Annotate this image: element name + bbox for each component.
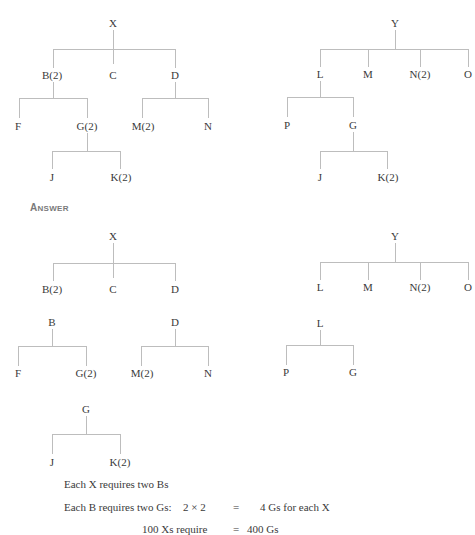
- node-b: B(2): [42, 283, 62, 295]
- node-d: D: [171, 316, 179, 328]
- node-n: N: [204, 367, 212, 379]
- connector: [175, 82, 176, 98]
- connector: [53, 263, 176, 264]
- calc-line-2-label: Each B requires two Gs:: [64, 501, 172, 513]
- connector: [52, 151, 53, 169]
- node-k: K(2): [378, 171, 399, 183]
- connector: [353, 97, 354, 117]
- connector: [113, 243, 114, 278]
- connector: [468, 49, 469, 67]
- node-f: F: [15, 120, 21, 132]
- node-b: B: [48, 316, 55, 328]
- connector: [208, 346, 209, 366]
- node-x: X: [109, 17, 117, 29]
- connector: [368, 49, 369, 67]
- connector: [353, 132, 354, 151]
- connector: [420, 262, 421, 280]
- connector: [320, 262, 469, 263]
- connector: [120, 151, 121, 169]
- connector: [320, 81, 321, 97]
- node-o: O: [464, 68, 472, 80]
- calc-line-3-label: 100 Xs require: [142, 523, 207, 535]
- node-m: M: [363, 281, 373, 293]
- node-j: J: [318, 171, 322, 183]
- calc-line-2-result: 4 Gs for each X: [260, 501, 330, 513]
- connector: [141, 346, 209, 347]
- connector: [142, 98, 143, 118]
- node-d: D: [171, 69, 179, 81]
- connector: [208, 98, 209, 118]
- connector: [387, 151, 388, 169]
- node-k: K(2): [111, 171, 132, 183]
- node-j: J: [50, 456, 54, 468]
- node-c: C: [109, 283, 116, 295]
- node-p: P: [284, 119, 290, 131]
- connector: [175, 263, 176, 281]
- node-o: O: [464, 281, 472, 293]
- node-m: M: [363, 68, 373, 80]
- calc-line-3-eq: =: [233, 523, 239, 535]
- connector: [395, 243, 396, 262]
- connector: [320, 151, 388, 152]
- node-l: L: [317, 68, 324, 80]
- calc-line-1: Each X requires two Bs: [64, 478, 168, 490]
- connector: [52, 434, 53, 454]
- connector: [87, 98, 88, 118]
- connector: [175, 49, 176, 68]
- node-y: Y: [391, 230, 399, 242]
- node-g: G(2): [76, 367, 97, 379]
- node-l: L: [317, 281, 324, 293]
- connector: [18, 346, 19, 366]
- connector: [320, 49, 469, 50]
- connector: [52, 434, 121, 435]
- connector: [141, 346, 142, 366]
- connector: [368, 262, 369, 280]
- answer-heading: ANSWER: [30, 202, 69, 213]
- answer-heading-initial: A: [30, 202, 38, 213]
- connector: [286, 345, 287, 365]
- node-b: B(2): [42, 69, 62, 81]
- connector: [320, 151, 321, 169]
- node-g: G(2): [77, 120, 98, 132]
- connector: [53, 263, 54, 281]
- node-g: G: [349, 119, 357, 131]
- node-n: N: [204, 120, 212, 132]
- connector: [420, 49, 421, 67]
- connector: [52, 329, 53, 346]
- connector: [395, 30, 396, 49]
- node-g: G: [349, 366, 357, 378]
- connector: [53, 82, 54, 98]
- connector: [468, 262, 469, 280]
- node-j: J: [50, 171, 54, 183]
- connector: [120, 434, 121, 454]
- connector: [320, 262, 321, 280]
- node-d: D: [171, 283, 179, 295]
- calc-line-2-eq: =: [233, 501, 239, 513]
- node-l: L: [317, 317, 324, 329]
- connector: [19, 98, 88, 99]
- connector: [86, 416, 87, 434]
- answer-heading-rest: NSWER: [38, 204, 69, 213]
- connector: [113, 30, 114, 64]
- calc-line-3-result: 400 Gs: [247, 523, 278, 535]
- connector: [19, 98, 20, 118]
- connector: [86, 346, 87, 366]
- calc-line-2-expr: 2 × 2: [183, 501, 206, 513]
- connector: [53, 49, 176, 50]
- node-g: G: [82, 403, 90, 415]
- node-k: K(2): [110, 456, 131, 468]
- connector: [287, 97, 288, 117]
- node-p: P: [283, 366, 289, 378]
- connector: [87, 133, 88, 151]
- node-f: F: [15, 367, 21, 379]
- node-n: N(2): [410, 68, 431, 80]
- node-c: C: [109, 69, 116, 81]
- node-m: M(2): [131, 367, 154, 379]
- node-m: M(2): [132, 120, 155, 132]
- connector: [286, 345, 354, 346]
- connector: [320, 330, 321, 345]
- connector: [52, 151, 121, 152]
- connector: [320, 49, 321, 67]
- connector: [18, 346, 87, 347]
- connector: [175, 329, 176, 346]
